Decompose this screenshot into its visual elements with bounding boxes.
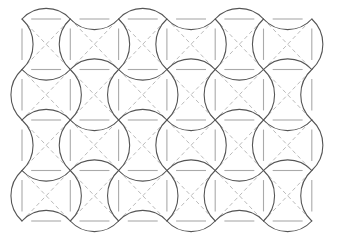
tessellation-canvas: [0, 0, 337, 245]
figure-background: [0, 0, 337, 245]
tessellation-figure: [0, 0, 337, 245]
